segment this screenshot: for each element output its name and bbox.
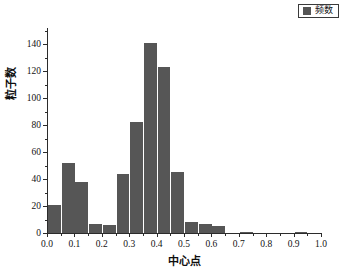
- y-tick-mark: [43, 98, 47, 99]
- x-tick-mark: [47, 233, 48, 237]
- x-tick-mark: [184, 233, 185, 237]
- y-tick-label: 0: [36, 228, 41, 238]
- x-tick-minor: [280, 233, 281, 236]
- x-tick-label: 0.9: [288, 239, 300, 249]
- y-tick-minor: [45, 112, 48, 113]
- x-tick-mark: [129, 233, 130, 237]
- x-tick-minor: [198, 233, 199, 236]
- x-tick-mark: [266, 233, 267, 237]
- bar: [185, 222, 198, 233]
- y-tick-label: 100: [27, 93, 41, 103]
- x-tick-label: 0.3: [123, 239, 135, 249]
- x-tick-minor: [116, 233, 117, 236]
- legend-label: 频数: [315, 6, 333, 15]
- bar: [158, 67, 171, 233]
- x-tick-label: 1.0: [315, 239, 327, 249]
- x-tick-label: 0.1: [68, 239, 80, 249]
- x-tick-label: 0.2: [96, 239, 108, 249]
- x-tick-minor: [143, 233, 144, 236]
- bar: [130, 122, 143, 233]
- bar: [75, 182, 88, 233]
- bar: [240, 232, 253, 233]
- x-tick-mark: [211, 233, 212, 237]
- x-tick-minor: [225, 233, 226, 236]
- x-tick-mark: [294, 233, 295, 237]
- x-tick-minor: [61, 233, 62, 236]
- y-tick-label: 40: [32, 174, 42, 184]
- bar: [295, 232, 308, 233]
- y-tick-label: 60: [32, 147, 42, 157]
- y-tick-minor: [45, 85, 48, 86]
- y-tick-mark: [43, 71, 47, 72]
- bar: [171, 172, 184, 233]
- bar: [89, 224, 102, 233]
- x-tick-label: 0.8: [260, 239, 272, 249]
- x-tick-label: 0.6: [205, 239, 217, 249]
- y-tick-mark: [43, 125, 47, 126]
- y-tick-label: 20: [32, 201, 42, 211]
- y-tick-mark: [43, 206, 47, 207]
- bar: [212, 226, 225, 233]
- y-tick-minor: [45, 193, 48, 194]
- x-tick-label: 0.4: [151, 239, 163, 249]
- x-tick-mark: [239, 233, 240, 237]
- x-tick-minor: [170, 233, 171, 236]
- bar: [62, 163, 75, 233]
- x-tick-mark: [102, 233, 103, 237]
- y-tick-mark: [43, 44, 47, 45]
- y-tick-minor: [45, 220, 48, 221]
- x-tick-mark: [157, 233, 158, 237]
- x-axis-title: 中心点: [47, 252, 322, 268]
- bar: [144, 43, 157, 233]
- y-tick-minor: [45, 31, 48, 32]
- y-tick-minor: [45, 166, 48, 167]
- chart-legend: 频数: [298, 4, 339, 18]
- bar-series: [48, 28, 322, 233]
- y-axis-title: 粒子数: [2, 67, 18, 100]
- plot-area: 020406080100120140 0.00.10.20.30.40.50.6…: [47, 28, 322, 234]
- bar: [117, 174, 130, 233]
- bar: [48, 205, 61, 233]
- x-tick-label: 0.0: [41, 239, 53, 249]
- bar: [199, 224, 212, 233]
- x-tick-label: 0.5: [178, 239, 190, 249]
- x-tick-minor: [253, 233, 254, 236]
- y-tick-mark: [43, 179, 47, 180]
- x-tick-minor: [307, 233, 308, 236]
- x-tick-minor: [88, 233, 89, 236]
- x-tick-mark: [321, 233, 322, 237]
- x-tick-label: 0.7: [233, 239, 245, 249]
- bar: [103, 225, 116, 233]
- y-tick-minor: [45, 139, 48, 140]
- y-tick-label: 80: [32, 120, 42, 130]
- y-tick-mark: [43, 152, 47, 153]
- histogram-figure: 频数 020406080100120140 0.00.10.20.30.40.5…: [0, 0, 343, 277]
- legend-swatch-icon: [303, 7, 311, 15]
- y-tick-minor: [45, 58, 48, 59]
- y-tick-label: 140: [27, 39, 41, 49]
- y-tick-label: 120: [27, 66, 41, 76]
- x-tick-mark: [74, 233, 75, 237]
